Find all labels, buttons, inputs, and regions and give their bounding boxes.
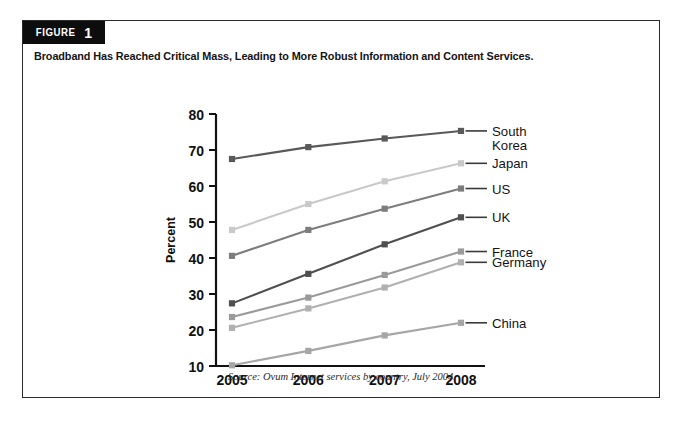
series-label: Korea [492,138,528,153]
data-point-marker [458,160,464,166]
figure-badge-number: 1 [84,26,92,40]
series-china: China [229,316,527,369]
figure-frame: FIGURE 1 Broadband Has Reached Critical … [22,20,660,398]
data-point-marker [305,295,311,301]
data-point-marker [305,201,311,207]
data-point-marker [382,284,388,290]
data-point-marker [305,144,311,150]
data-point-marker [305,227,311,233]
data-point-marker [229,300,235,306]
y-axis-tick-label: 30 [188,287,204,303]
data-point-marker [305,271,311,277]
figure-headline: Broadband Has Reached Critical Mass, Lea… [34,50,626,62]
data-point-marker [229,325,235,331]
series-label: Germany [492,255,547,270]
series-line [232,323,461,365]
series-label: Japan [492,156,528,171]
data-point-marker [382,178,388,184]
y-axis-title: Percent [164,216,178,263]
y-axis-tick-label: 80 [188,107,204,123]
data-point-marker [382,206,388,212]
data-point-marker [382,332,388,338]
screenshot-root: FIGURE 1 Broadband Has Reached Critical … [0,0,682,428]
series-line [232,217,461,303]
chart-container: 1020304050607080Percent2005200620072008S… [23,65,661,399]
series-south-korea: SouthKorea [229,124,528,162]
data-point-marker [458,248,464,254]
series-label: China [492,316,527,331]
data-point-marker [382,241,388,247]
series-line [232,189,461,256]
data-point-marker [229,314,235,320]
source-note: Source: Ovum Internet services by countr… [23,371,661,382]
y-axis-tick-label: 50 [188,215,204,231]
line-chart: 1020304050607080Percent2005200620072008S… [23,65,661,399]
data-point-marker [458,214,464,220]
data-point-marker [305,305,311,311]
figure-badge-word: FIGURE [36,27,76,38]
series-france: France [229,245,533,321]
data-point-marker [305,348,311,354]
series-japan: Japan [229,156,528,233]
series-us: US [229,182,511,259]
data-point-marker [229,253,235,259]
y-axis-tick-label: 70 [188,143,204,159]
series-label: South [492,124,526,139]
data-point-marker [229,362,235,368]
data-point-marker [458,128,464,134]
series-label: UK [492,210,511,225]
data-point-marker [458,185,464,191]
series-label: US [492,182,511,197]
y-axis-tick-label: 20 [188,323,204,339]
data-point-marker [458,259,464,265]
data-point-marker [458,320,464,326]
y-axis-tick-label: 40 [188,251,204,267]
data-point-marker [382,135,388,141]
data-point-marker [229,227,235,233]
data-point-marker [229,156,235,162]
series-line [232,262,461,328]
y-axis-tick-label: 60 [188,179,204,195]
data-point-marker [382,272,388,278]
series-line [232,131,461,159]
series-line [232,252,461,318]
figure-badge: FIGURE 1 [23,21,105,44]
